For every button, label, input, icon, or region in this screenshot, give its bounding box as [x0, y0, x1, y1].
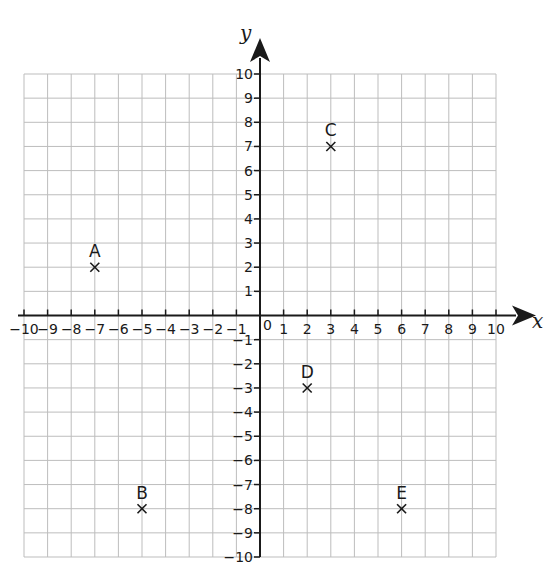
y-tick-label: −7 [232, 477, 253, 493]
y-tick-label: −6 [232, 452, 253, 468]
x-tick-label: 8 [444, 321, 453, 337]
point-label: D [301, 362, 314, 382]
x-tick-label: 7 [421, 321, 430, 337]
x-tick-label: 9 [468, 321, 477, 337]
x-tick-label: 4 [350, 321, 359, 337]
x-tick-label: −8 [61, 321, 82, 337]
y-tick-label: 3 [244, 235, 253, 251]
x-tick-label: −4 [155, 321, 176, 337]
y-axis-label: y [239, 21, 252, 45]
x-tick-label: 1 [279, 321, 288, 337]
y-tick-label: −3 [232, 380, 253, 396]
x-tick-label: −6 [108, 321, 129, 337]
point-label: C [325, 120, 337, 140]
y-tick-label: 2 [244, 259, 253, 275]
x-tick-label: 5 [374, 321, 383, 337]
y-tick-label: 5 [244, 187, 253, 203]
y-tick-label: 8 [244, 114, 253, 130]
coordinate-grid-figure: xy −10−9−8−7−6−5−4−3−2−112345678910−10−9… [0, 0, 552, 588]
y-tick-label: 6 [244, 163, 253, 179]
x-tick-label: 3 [326, 321, 335, 337]
y-tick-label: −10 [223, 549, 253, 565]
y-tick-label: 10 [235, 66, 253, 82]
y-tick-label: 4 [244, 211, 253, 227]
x-tick-label: −2 [202, 321, 223, 337]
y-tick-label: −2 [232, 356, 253, 372]
point-label: B [136, 483, 148, 503]
y-tick-label: 1 [244, 283, 253, 299]
y-tick-label: −1 [232, 332, 253, 348]
x-tick-label: −10 [9, 321, 39, 337]
point-label: A [89, 241, 101, 261]
y-tick-label: 9 [244, 90, 253, 106]
point-label: E [396, 483, 407, 503]
x-tick-label: −3 [179, 321, 200, 337]
x-tick-label: 10 [487, 321, 505, 337]
x-axis-label: x [532, 309, 543, 333]
x-tick-label: 2 [303, 321, 312, 337]
x-tick-label: −7 [84, 321, 105, 337]
y-tick-label: 7 [244, 138, 253, 154]
x-tick-label: 6 [397, 321, 406, 337]
x-tick-label: −5 [132, 321, 153, 337]
y-tick-label: −5 [232, 428, 253, 444]
axes: xy [18, 21, 543, 557]
y-tick-label: −4 [232, 404, 253, 420]
y-tick-label: −8 [232, 501, 253, 517]
y-tick-label: −9 [232, 525, 253, 541]
x-tick-label: −9 [37, 321, 58, 337]
origin-label: 0 [263, 317, 272, 333]
